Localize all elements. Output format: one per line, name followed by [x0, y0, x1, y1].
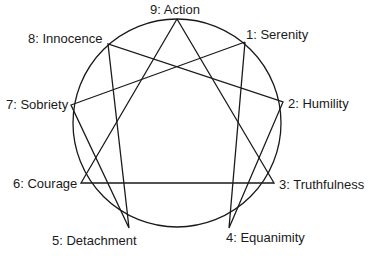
label-point-2: 2: Humility [288, 96, 349, 111]
label-point-7: 7: Sobriety [6, 97, 68, 112]
label-point-8: 8: Innocence [28, 31, 102, 46]
label-point-3: 3: Truthfulness [279, 177, 364, 192]
hexad-lines [71, 42, 283, 228]
label-point-9: 9: Action [150, 2, 200, 17]
label-point-1: 1: Serenity [246, 27, 308, 42]
enneagram-circle [73, 19, 281, 227]
label-point-5: 5: Detachment [52, 233, 137, 248]
label-point-6: 6: Courage [13, 176, 77, 191]
label-point-4: 4: Equanimity [226, 230, 305, 245]
